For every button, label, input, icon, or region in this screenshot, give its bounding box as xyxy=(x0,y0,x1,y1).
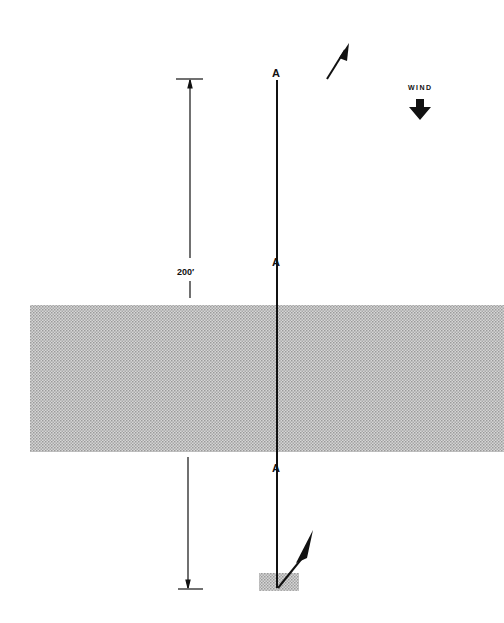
shaded-band xyxy=(30,305,504,452)
point-label-bottom: A xyxy=(272,462,280,474)
dimension-label: 200′ xyxy=(177,267,194,277)
wind-arrow-down-icon xyxy=(409,99,431,120)
wind-label: WIND xyxy=(408,84,433,91)
diagram-canvas: 200′ A A A WIND xyxy=(0,0,504,623)
point-label-middle: A xyxy=(272,256,280,268)
point-label-top: A xyxy=(272,67,280,79)
heading-arrow-top-icon xyxy=(327,43,349,79)
